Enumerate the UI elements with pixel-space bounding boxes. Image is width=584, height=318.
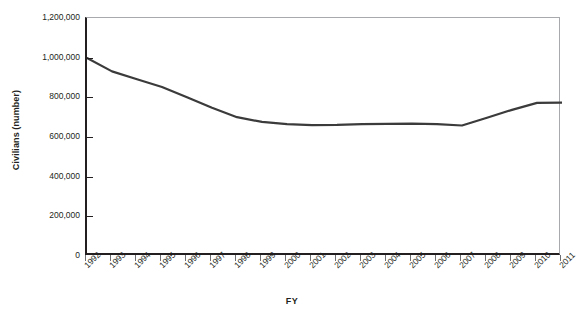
series-line-civilians bbox=[87, 18, 562, 256]
y-tick-label-600000: 600,000 bbox=[49, 131, 80, 141]
plot-area bbox=[85, 17, 560, 255]
y-tick-label-1000000: 1,000,000 bbox=[42, 52, 80, 62]
line-chart-figure: Civilians (number) 0200,000400,000600,00… bbox=[0, 0, 584, 318]
y-tick-label-400000: 400,000 bbox=[49, 171, 80, 181]
y-tick-mark-800000 bbox=[87, 97, 93, 98]
y-tick-mark-1000000 bbox=[87, 58, 93, 59]
y-tick-label-200000: 200,000 bbox=[49, 210, 80, 220]
y-tick-mark-600000 bbox=[87, 137, 93, 138]
y-tick-label-800000: 800,000 bbox=[49, 91, 80, 101]
y-axis-title-text: Civilians (number) bbox=[11, 90, 21, 170]
y-axis-tick-labels: 0200,000400,000600,000800,0001,000,0001,… bbox=[22, 17, 80, 255]
y-tick-label-1200000: 1,200,000 bbox=[42, 12, 80, 22]
y-tick-label-0: 0 bbox=[75, 250, 80, 260]
y-tick-mark-400000 bbox=[87, 177, 93, 178]
y-tick-mark-200000 bbox=[87, 216, 93, 217]
x-axis-title: FY bbox=[0, 296, 584, 306]
series-polyline bbox=[87, 58, 562, 125]
